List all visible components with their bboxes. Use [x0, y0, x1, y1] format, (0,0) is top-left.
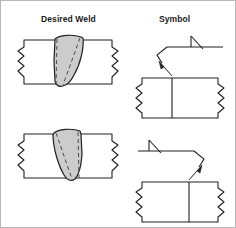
- row-1-arrowhead: [159, 61, 172, 76]
- row-1-desired-weld: [18, 35, 118, 86]
- welding-symbol-figure: Desired Weld Symbol: [0, 0, 236, 228]
- row-1-symbol: [136, 36, 224, 118]
- row-1-joint-outline: [136, 78, 224, 118]
- row-2-arrowhead: [189, 165, 202, 180]
- row-2-leader-line: [194, 151, 204, 167]
- row-2-joint-outline: [136, 182, 224, 222]
- row-2-desired-weld: [18, 129, 118, 180]
- diagram-artwork: [1, 1, 236, 228]
- row-1-leader-line: [157, 47, 167, 63]
- row-2-symbol: [136, 140, 224, 222]
